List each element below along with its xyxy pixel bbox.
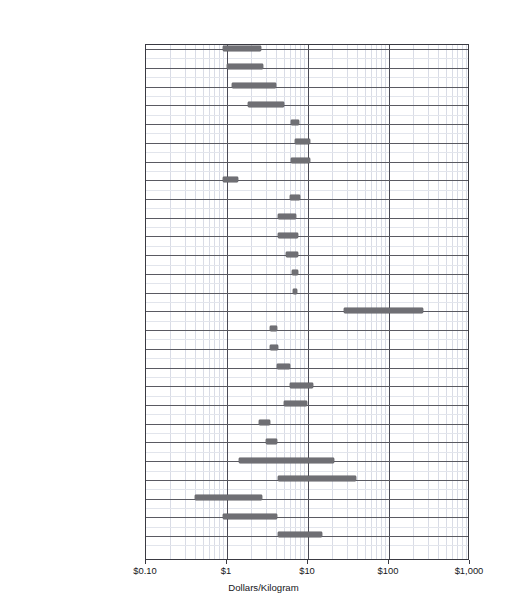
range-bar	[292, 270, 298, 275]
gridline-minor-horizontal	[146, 77, 468, 78]
x-tick-label: $0.10	[133, 565, 156, 576]
range-bar	[223, 177, 238, 182]
category-baseline	[146, 218, 468, 219]
x-tick	[388, 560, 389, 564]
gridline-minor-horizontal	[146, 227, 468, 228]
gridline-minor-horizontal	[146, 489, 468, 490]
gridline-minor-horizontal	[146, 302, 468, 303]
gridline-minor-horizontal	[146, 321, 468, 322]
range-bar	[239, 458, 334, 463]
range-bar	[232, 83, 276, 88]
category-baseline	[146, 424, 468, 425]
gridline-major-100	[389, 45, 390, 559]
plot-area	[145, 44, 469, 560]
range-bar	[223, 46, 260, 51]
range-bar	[248, 102, 285, 107]
range-bar	[259, 420, 270, 425]
gridline-minor-horizontal	[146, 283, 468, 284]
gridline-major-1	[227, 45, 228, 559]
range-bar	[270, 326, 277, 331]
range-bar	[195, 495, 262, 500]
range-bar	[290, 195, 300, 200]
category-axis-labels: 1020 Steel1040 Steel4140 Steel4340 Steel…	[0, 0, 150, 614]
x-axis-title-text: Dollars/Kilogram	[228, 582, 298, 593]
x-tick	[469, 560, 470, 564]
category-baseline	[146, 349, 468, 350]
range-bar	[266, 439, 277, 444]
gridline-minor-horizontal	[146, 115, 468, 116]
gridline-minor-horizontal	[146, 190, 468, 191]
range-bar	[277, 364, 290, 369]
range-bar	[344, 308, 422, 313]
x-tick	[226, 560, 227, 564]
gridline-minor-horizontal	[146, 433, 468, 434]
x-axis: Dollars/Kilogram $0.10$1$10$100$1,000	[0, 560, 507, 614]
x-tick	[307, 560, 308, 564]
gridline-minor-horizontal	[146, 508, 468, 509]
gridline-minor-horizontal	[146, 96, 468, 97]
category-baseline	[146, 517, 468, 518]
gridline-minor-horizontal	[146, 414, 468, 415]
category-baseline	[146, 199, 468, 200]
x-axis-title: Dollars/Kilogram	[0, 582, 507, 593]
x-tick-label: $10	[299, 565, 315, 576]
category-baseline	[146, 87, 468, 88]
gridline-minor-horizontal	[146, 545, 468, 546]
gridline-minor-horizontal	[146, 265, 468, 266]
gridline-minor-horizontal	[146, 208, 468, 209]
range-bar	[295, 139, 309, 144]
gridline-minor-horizontal	[146, 152, 468, 153]
range-bar	[290, 383, 313, 388]
gridline-minor-horizontal	[146, 377, 468, 378]
category-baseline	[146, 405, 468, 406]
x-tick	[145, 560, 146, 564]
range-bar	[227, 64, 263, 69]
range-bar	[291, 120, 299, 125]
gridline-minor-horizontal	[146, 396, 468, 397]
scan-bleed-artifact	[300, 8, 303, 20]
category-baseline	[146, 274, 468, 275]
gridline-minor-horizontal	[146, 133, 468, 134]
range-bar	[284, 401, 307, 406]
range-bar	[278, 532, 322, 537]
gridline-minor-horizontal	[146, 358, 468, 359]
category-baseline	[146, 124, 468, 125]
category-baseline	[146, 368, 468, 369]
category-baseline	[146, 49, 468, 50]
x-tick-label: $100	[378, 565, 399, 576]
gridline-minor-horizontal	[146, 171, 468, 172]
range-bar	[278, 214, 296, 219]
gridline-minor-horizontal	[146, 471, 468, 472]
gridline-minor-horizontal	[146, 246, 468, 247]
range-bar	[223, 514, 277, 519]
category-baseline	[146, 68, 468, 69]
range-bar	[286, 252, 299, 257]
range-bar	[291, 158, 310, 163]
category-baseline	[146, 330, 468, 331]
category-baseline	[146, 236, 468, 237]
category-baseline	[146, 180, 468, 181]
category-baseline	[146, 293, 468, 294]
gridline-minor-horizontal	[146, 527, 468, 528]
gridline-minor-horizontal	[146, 452, 468, 453]
range-bar	[293, 289, 297, 294]
x-tick-label: $1,000	[455, 565, 484, 576]
range-bar	[270, 345, 278, 350]
gridline-minor-horizontal	[146, 58, 468, 59]
category-baseline	[146, 105, 468, 106]
range-bar	[278, 476, 356, 481]
gridline-minor-horizontal	[146, 339, 468, 340]
x-tick-label: $1	[221, 565, 231, 576]
gridline-major-10	[308, 45, 309, 559]
cost-comparison-chart: 1020 Steel1040 Steel4140 Steel4340 Steel…	[0, 0, 507, 614]
category-baseline	[146, 255, 468, 256]
category-baseline	[146, 442, 468, 443]
range-bar	[278, 233, 298, 238]
